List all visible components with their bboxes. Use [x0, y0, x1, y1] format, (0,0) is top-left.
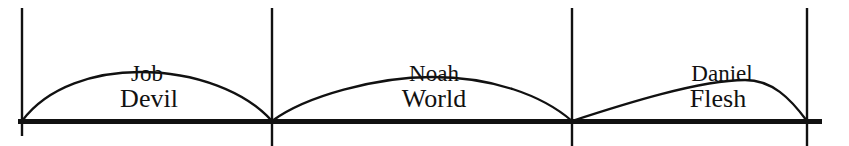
arc-1-bottom-label: Devil	[120, 86, 178, 112]
arc-1-top-label: Job	[131, 62, 163, 85]
arc-3-top-label: Daniel	[691, 62, 752, 85]
arc-timeline-figure: Job Devil Noah World Daniel Flesh	[0, 0, 849, 146]
arc-2-top-label: Noah	[409, 62, 459, 85]
arc-2-bottom-label: World	[402, 86, 466, 112]
arc-3-bottom-label: Flesh	[690, 86, 746, 112]
